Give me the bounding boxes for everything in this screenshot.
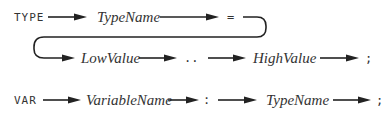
semicolon-terminal: ; (376, 93, 383, 107)
high-value-nonterminal: HighValue (252, 50, 317, 66)
arrow-icon (160, 14, 219, 21)
arrow-icon (48, 14, 87, 21)
arrow-icon (168, 97, 199, 104)
arrow-icon (208, 55, 246, 62)
variable-name-nonterminal: VariableName (86, 92, 172, 108)
type-keyword: TYPE (14, 11, 45, 24)
arrow-icon (139, 55, 177, 62)
arrow-icon (320, 55, 359, 62)
var-declaration-rule: VAR VariableName : TypeName ; (14, 92, 383, 108)
var-keyword: VAR (14, 94, 37, 107)
arrow-icon (43, 97, 81, 104)
semicolon-terminal: ; (365, 51, 372, 65)
arrow-icon (218, 97, 257, 104)
type-name-nonterminal: TypeName (266, 92, 329, 108)
low-value-nonterminal: LowValue (80, 50, 141, 66)
type-name-nonterminal: TypeName (97, 9, 160, 25)
equals-terminal: = (227, 10, 234, 24)
colon-terminal: : (203, 93, 210, 107)
type-declaration-rule: TYPE TypeName = LowValue .. HighValue (14, 9, 372, 66)
arrow-icon (62, 55, 75, 62)
arrow-icon (333, 97, 371, 104)
syntax-diagram: TYPE TypeName = LowValue .. HighValue (0, 0, 391, 114)
range-terminal: .. (184, 51, 198, 65)
